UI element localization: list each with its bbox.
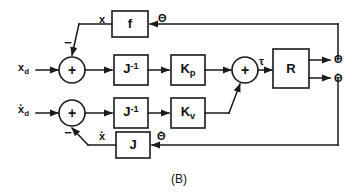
- figure-caption: (B): [0, 172, 358, 186]
- input-label-xd-dot: ·xd: [18, 104, 29, 117]
- signal-label-tau: τ: [259, 56, 264, 67]
- block-label-kv: Kv: [171, 105, 205, 121]
- signal-label-theta-dot-bottom: ·Θ: [157, 131, 166, 142]
- wire-j-to-sum-vel: [72, 128, 116, 145]
- sum-symbol-tau: +: [232, 63, 258, 77]
- output-label-theta-dot: ·Θ: [334, 73, 343, 84]
- figure-canvas: xd ·xd f J-1 Kp J-1 Kv R J + − + − + x: [0, 0, 358, 196]
- signal-label-x-dot-feedback: ·x: [99, 131, 105, 142]
- signal-label-theta-top: Θ: [158, 13, 167, 24]
- signal-label-x-feedback: x: [99, 14, 105, 25]
- sum-symbol-velocity: +: [59, 106, 85, 120]
- sum-symbol-position: +: [59, 63, 85, 77]
- input-label-xd: xd: [18, 62, 29, 75]
- block-label-j-inverse-velocity: J-1: [114, 105, 148, 118]
- sum-sign-negative-velocity: −: [60, 126, 76, 139]
- block-label-r: R: [273, 62, 309, 75]
- wire-f-to-sum-pos: [72, 24, 112, 55]
- block-label-j: J: [116, 138, 150, 151]
- wire-kv-to-sumtau: [205, 84, 240, 113]
- output-label-theta: Θ: [334, 54, 343, 65]
- block-diagram-svg: [0, 0, 358, 196]
- block-label-kp: Kp: [171, 62, 205, 78]
- block-label-j-inverse-position: J-1: [114, 62, 148, 75]
- sum-sign-negative-position: −: [60, 36, 76, 49]
- block-label-f: f: [112, 17, 148, 30]
